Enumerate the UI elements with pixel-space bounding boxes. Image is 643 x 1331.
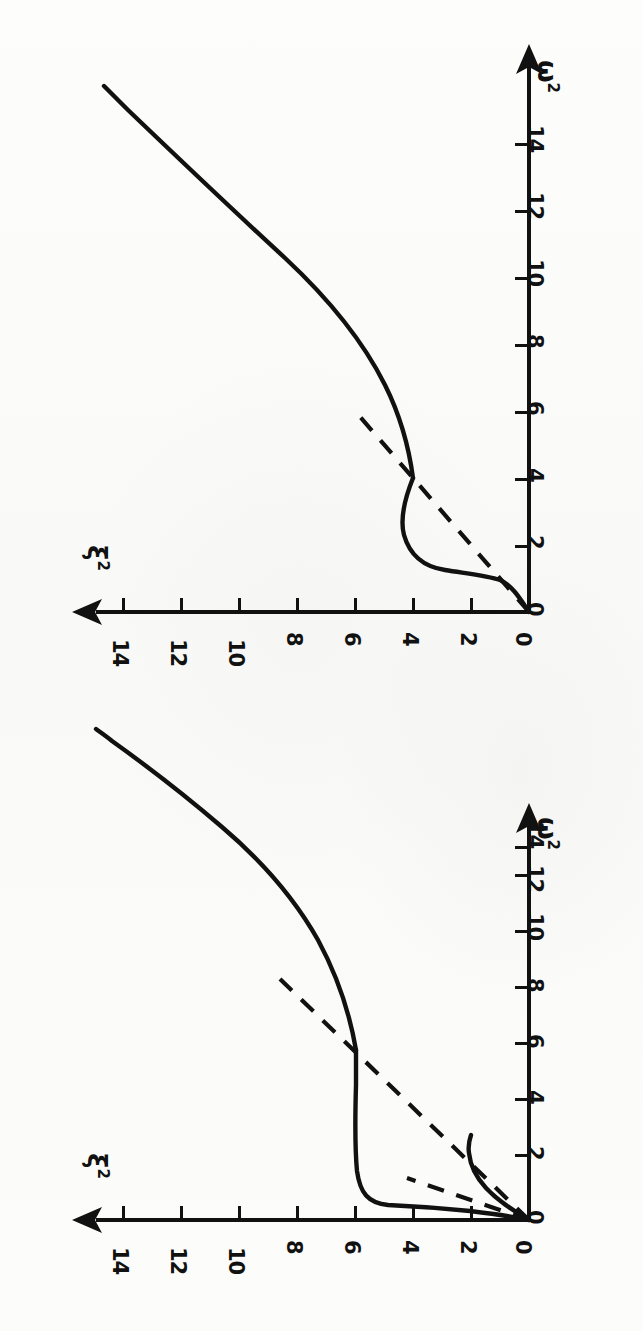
right-upper-branch [104,86,413,478]
left-asymptote-lower-dashed [407,1178,529,1220]
left-asymptote-upper-dashed [280,979,529,1220]
left-upper-branch [96,729,356,1050]
left-near-origin-cusp [469,1135,529,1220]
left-panel: 0 2 4 6 8 10 12 14 0 2 4 6 8 10 12 14 ξ2… [0,665,643,1331]
right-panel: 0 2 4 6 8 10 12 14 0 2 4 6 8 10 12 14 ξ2… [0,0,643,665]
figure-canvas: 0 2 4 6 8 10 12 14 0 2 4 6 8 10 12 14 ξ2… [0,0,643,1331]
right-panel-curves [0,0,643,665]
left-panel-curves [0,665,643,1331]
right-lower-branch [403,478,529,612]
